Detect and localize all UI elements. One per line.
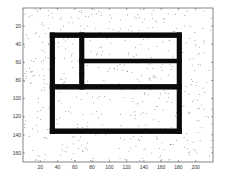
noise-point — [64, 58, 65, 59]
noise-point — [76, 97, 77, 98]
noise-point — [204, 92, 205, 93]
noise-point — [109, 21, 110, 22]
noise-point — [202, 28, 203, 29]
noise-point — [44, 90, 45, 91]
noise-point — [168, 51, 169, 52]
noise-point — [164, 90, 165, 91]
noise-point — [24, 73, 25, 74]
noise-point — [34, 75, 35, 76]
noise-point — [191, 79, 192, 80]
noise-point — [198, 64, 199, 65]
noise-point — [156, 136, 157, 137]
noise-point — [111, 18, 112, 19]
noise-point — [157, 22, 158, 23]
noise-point — [120, 20, 121, 21]
noise-point — [35, 33, 36, 34]
noise-point — [77, 61, 78, 62]
noise-point — [148, 28, 149, 29]
noise-point — [65, 111, 66, 112]
x-tick-label: 60 — [72, 164, 78, 170]
noise-point — [83, 114, 84, 115]
noise-point — [41, 62, 42, 63]
noise-point — [82, 127, 83, 128]
noise-point — [58, 46, 59, 47]
noise-point — [175, 14, 176, 15]
noise-point — [119, 148, 120, 149]
noise-point — [186, 86, 187, 87]
noise-point — [60, 79, 61, 80]
noise-point — [198, 132, 199, 133]
noise-point — [140, 44, 141, 45]
noise-point — [42, 22, 43, 23]
noise-point — [184, 137, 185, 138]
noise-point — [126, 159, 127, 160]
y-tick-label: 60 — [15, 59, 21, 65]
noise-point — [212, 109, 213, 110]
noise-point — [49, 69, 50, 70]
noise-point — [148, 49, 149, 50]
noise-point — [204, 53, 205, 54]
noise-point — [160, 155, 161, 156]
noise-point — [43, 69, 44, 70]
noise-point — [88, 122, 89, 123]
noise-point — [171, 127, 172, 128]
noise-point — [145, 125, 146, 126]
noise-point — [136, 55, 137, 56]
noise-point — [194, 32, 195, 33]
noise-point — [96, 14, 97, 15]
noise-point — [137, 79, 138, 80]
noise-point — [61, 17, 62, 18]
noise-point — [156, 46, 157, 47]
noise-point — [31, 61, 32, 62]
noise-point — [113, 29, 114, 30]
noise-point — [101, 15, 102, 16]
noise-point — [132, 98, 133, 99]
noise-point — [133, 56, 134, 57]
noise-point — [148, 38, 149, 39]
x-tick-label: 120 — [122, 164, 131, 170]
noise-point — [155, 21, 156, 22]
noise-point — [131, 26, 132, 27]
noise-point — [85, 148, 86, 149]
noise-point — [157, 106, 158, 107]
noise-point — [154, 76, 155, 77]
noise-point — [59, 100, 60, 101]
noise-point — [135, 118, 136, 119]
wall-outer-bottom — [50, 128, 182, 133]
noise-point — [73, 23, 74, 24]
noise-point — [29, 16, 30, 17]
noise-point — [49, 107, 50, 108]
noise-point — [92, 114, 93, 115]
noise-point — [160, 94, 161, 95]
noise-point — [107, 38, 108, 39]
noise-point — [63, 38, 64, 39]
noise-point — [32, 129, 33, 130]
x-tick-label: 80 — [89, 164, 95, 170]
noise-point — [34, 61, 35, 62]
noise-point — [111, 43, 112, 44]
noise-point — [52, 13, 53, 14]
noise-point — [175, 31, 176, 32]
noise-point — [101, 12, 102, 13]
noise-point — [102, 51, 103, 52]
noise-point — [202, 127, 203, 128]
noise-point — [168, 75, 169, 76]
noise-point — [138, 126, 139, 127]
noise-point — [88, 17, 89, 18]
noise-point — [161, 78, 162, 79]
noise-point — [152, 14, 153, 15]
wall-outer-left — [50, 32, 55, 133]
noise-point — [108, 28, 109, 29]
noise-point — [172, 102, 173, 103]
noise-point — [72, 44, 73, 45]
noise-point — [131, 139, 132, 140]
noise-point — [197, 153, 198, 154]
noise-point — [131, 148, 132, 149]
noise-point — [210, 30, 211, 31]
noise-point — [147, 68, 148, 69]
noise-point — [99, 96, 100, 97]
noise-point — [133, 101, 134, 102]
noise-point — [81, 12, 82, 13]
noise-point — [185, 147, 186, 148]
noise-point — [114, 69, 115, 70]
